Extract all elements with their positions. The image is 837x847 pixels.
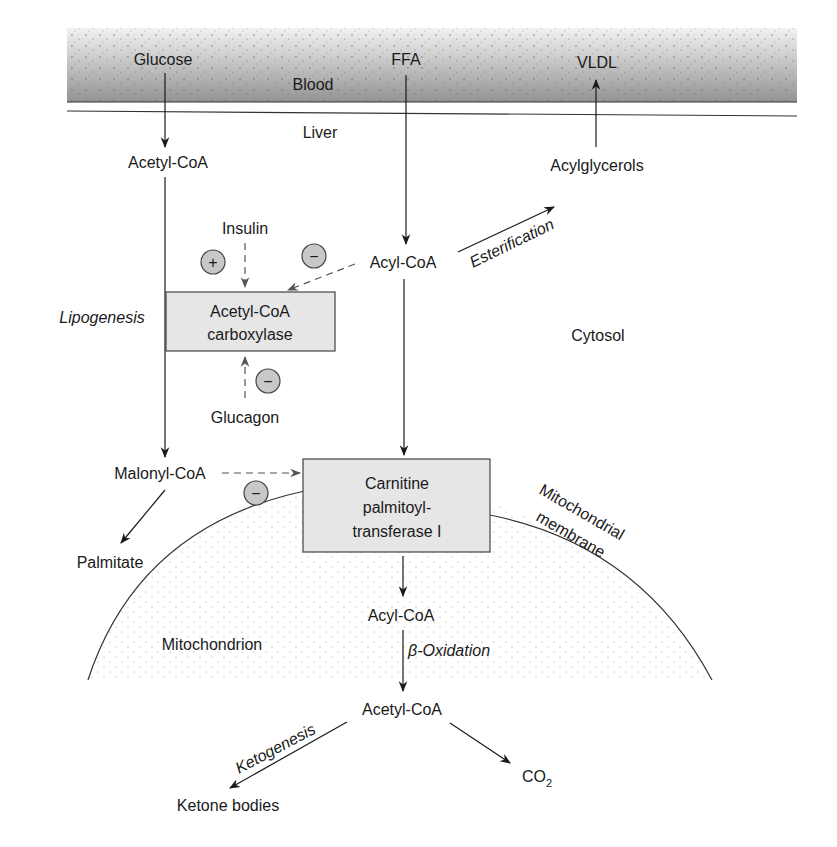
acetyl-coa-label: Acetyl-CoA: [128, 154, 208, 171]
beta-oxidation-label: β-Oxidation: [407, 642, 490, 659]
carnitine-palmitoyltransferase-box: Carnitine palmitoyl- transferase I: [303, 459, 490, 552]
acylglycerols-label: Acylglycerols: [550, 157, 643, 174]
minus-sign-icon: −: [256, 369, 280, 393]
liver-cell-membrane: [67, 111, 797, 116]
blood-label: Blood: [293, 76, 334, 93]
svg-text:+: +: [208, 254, 217, 271]
pathway-arrows: [121, 73, 596, 788]
svg-text:−: −: [263, 373, 272, 390]
regulation-arrows: [222, 243, 355, 473]
vldl-label: VLDL: [577, 54, 617, 71]
acetyl-coa-carboxylase-box: Acetyl-CoA carboxylase: [166, 292, 335, 351]
cytosol-label: Cytosol: [571, 327, 624, 344]
co2-label: CO2: [522, 768, 552, 789]
malonyl-coa-label: Malonyl-CoA: [114, 465, 206, 482]
labels: Glucose Blood FFA VLDL Liver Acetyl-CoA …: [59, 51, 643, 814]
minus-sign-icon: −: [302, 244, 326, 268]
ketogenesis-label: Ketogenesis: [232, 720, 318, 776]
acylcoa-to-acc: [288, 264, 355, 290]
fatty-acid-metabolism-diagram: Acetyl-CoA carboxylase Carnitine palmito…: [0, 0, 837, 847]
palmitate-label: Palmitate: [77, 554, 144, 571]
acetyl-coa-mito-label: Acetyl-CoA: [362, 701, 442, 718]
insulin-label: Insulin: [222, 220, 268, 237]
plus-sign-icon: +: [201, 250, 225, 274]
acyl-coa-mito-label: Acyl-CoA: [368, 607, 435, 624]
svg-text:−: −: [309, 248, 318, 265]
ffa-label: FFA: [391, 51, 421, 68]
svg-text:β-Oxidation: β-Oxidation: [407, 642, 490, 659]
esterification-label: Esterification: [467, 215, 557, 270]
svg-text:Carnitine: Carnitine: [365, 475, 429, 492]
svg-text:−: −: [251, 485, 260, 502]
liver-label: Liver: [303, 124, 338, 141]
arrow-malonylcoa-to-palmitate: [121, 490, 165, 543]
acyl-coa-label: Acyl-CoA: [370, 254, 437, 271]
minus-sign-icon: −: [244, 481, 268, 505]
lipogenesis-label: Lipogenesis: [59, 309, 144, 326]
blood-compartment: [67, 28, 797, 116]
svg-text:carboxylase: carboxylase: [207, 326, 292, 343]
glucose-label: Glucose: [134, 51, 193, 68]
glucagon-label: Glucagon: [211, 409, 280, 426]
ketone-bodies-label: Ketone bodies: [177, 797, 279, 814]
svg-text:Acetyl-CoA: Acetyl-CoA: [210, 303, 290, 320]
svg-text:palmitoyl-: palmitoyl-: [363, 499, 431, 516]
arrow-to-co2: [450, 723, 510, 763]
svg-text:transferase I: transferase I: [353, 523, 442, 540]
mitochondrion-label: Mitochondrion: [162, 636, 263, 653]
